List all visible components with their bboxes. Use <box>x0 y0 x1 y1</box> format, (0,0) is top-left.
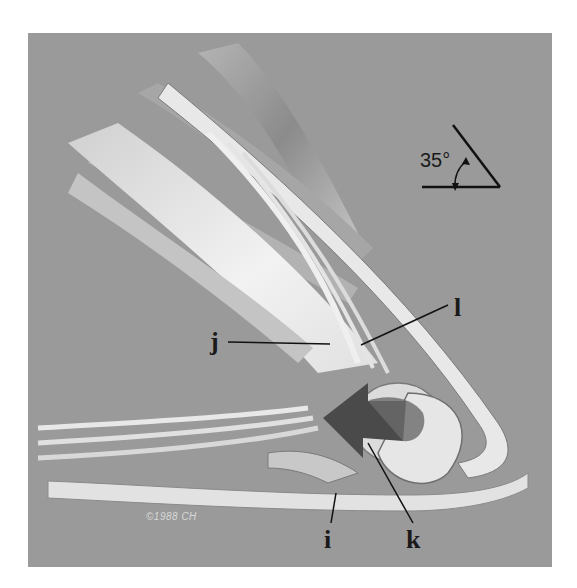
label-i: i <box>324 527 331 553</box>
angle-value: 35° <box>420 150 450 170</box>
foot-sole <box>48 473 528 511</box>
label-j: j <box>210 329 219 355</box>
leg-foot-drawing <box>28 33 552 567</box>
label-k: k <box>406 527 420 553</box>
label-l: l <box>454 295 461 321</box>
copyright-mark: ©1988 CH <box>146 511 197 522</box>
anatomical-illustration: 35° j l i k ©1988 CH <box>28 33 552 567</box>
